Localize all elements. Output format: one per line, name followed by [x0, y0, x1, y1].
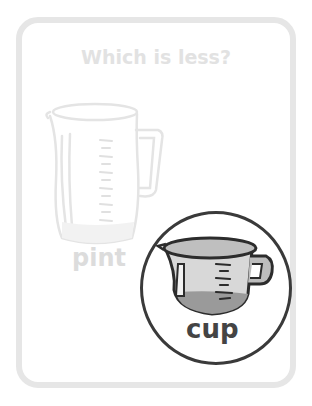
pint-label: pint — [72, 244, 126, 272]
measuring-cup-icon — [156, 232, 276, 318]
measuring-pitcher-icon — [40, 100, 176, 250]
cup-label: cup — [186, 314, 239, 344]
pint-option[interactable] — [40, 100, 176, 250]
question-title: Which is less? — [0, 46, 312, 68]
cup-option[interactable] — [156, 232, 276, 318]
